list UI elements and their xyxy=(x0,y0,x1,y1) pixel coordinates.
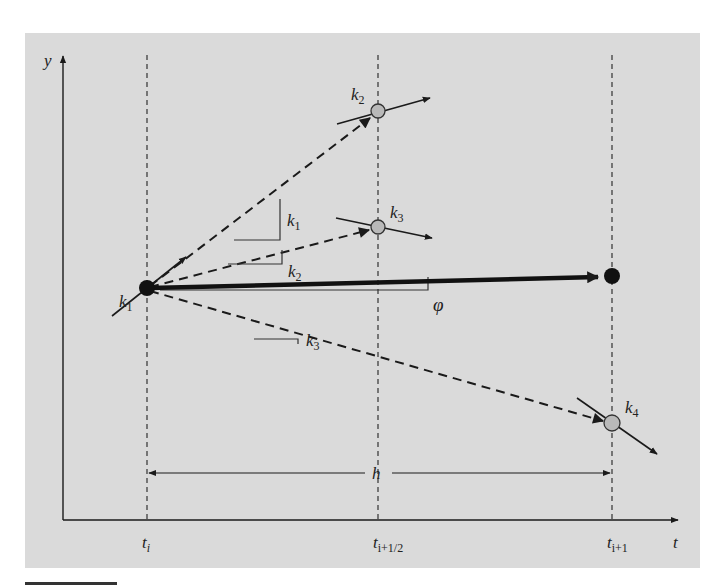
point-k1-start xyxy=(139,280,155,296)
point-k4 xyxy=(604,415,620,431)
phi-label: φ xyxy=(433,294,444,315)
rk4-slope-diagram: y t ti ti+1/2 ti+1 h k1 k2 k3 φ xyxy=(0,0,724,586)
step-h-label: h xyxy=(372,464,381,483)
point-k3 xyxy=(371,220,385,234)
point-k2 xyxy=(371,104,385,118)
caption-rule xyxy=(25,582,117,585)
y-axis-label: y xyxy=(42,51,52,70)
point-end xyxy=(604,268,620,284)
